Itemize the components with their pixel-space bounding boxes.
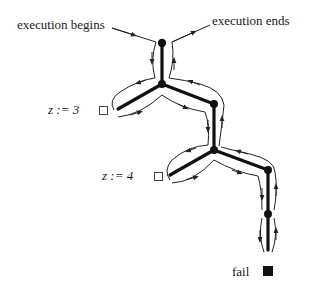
execution-begins-label: execution begins xyxy=(17,18,105,31)
node-2 xyxy=(158,80,166,88)
choice-z3-marker xyxy=(99,106,108,115)
edge-n2-n3 xyxy=(162,84,214,104)
execution-ends-label: execution ends xyxy=(212,14,290,27)
choice-z4-label: z := 4 xyxy=(102,169,133,182)
node-4 xyxy=(210,146,218,154)
choice-z4-marker xyxy=(154,172,163,181)
tree-edges xyxy=(118,43,268,250)
edge-n4-z4 xyxy=(170,150,214,175)
choice-z3-label: z := 3 xyxy=(48,103,79,116)
edge-n2-z3 xyxy=(118,84,162,109)
execution-tree-diagram xyxy=(0,0,311,290)
fail-label: fail xyxy=(232,265,249,278)
fail-marker xyxy=(263,266,273,276)
node-5 xyxy=(264,166,272,174)
edge-n4-n5 xyxy=(214,150,268,170)
node-6 xyxy=(264,210,272,218)
node-root xyxy=(158,39,166,47)
node-3 xyxy=(210,100,218,108)
execution-trace xyxy=(112,25,276,252)
